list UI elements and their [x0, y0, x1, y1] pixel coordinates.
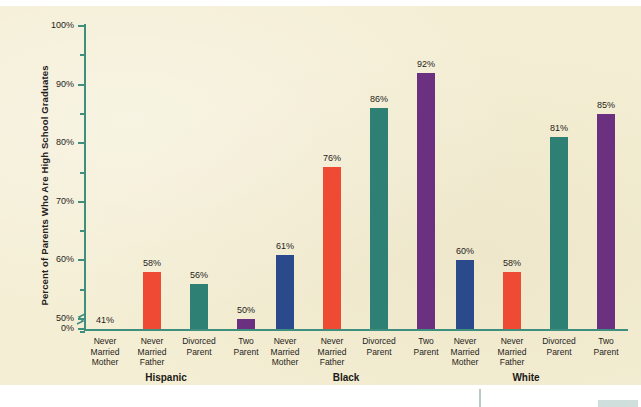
chart-page: Percent of Parents Who Are High School G… — [0, 0, 641, 407]
bar: 58% — [503, 272, 521, 329]
bar: 58% — [143, 272, 161, 329]
bar-value-label: 76% — [323, 153, 341, 163]
bar-value-label: 58% — [503, 258, 521, 268]
corner-artifact — [598, 400, 638, 407]
bar-value-label: 41% — [96, 315, 114, 325]
bar-value-label: 85% — [597, 100, 615, 110]
bar: 61% — [276, 255, 294, 329]
bar: 76% — [323, 167, 341, 329]
x-axis-group-label: Black — [286, 372, 406, 383]
bar: 60% — [456, 260, 474, 329]
x-axis-group-label: White — [466, 372, 586, 383]
bar-value-label: 60% — [456, 246, 474, 256]
x-axis-group-label: Hispanic — [106, 372, 226, 383]
bar: 56% — [190, 284, 208, 329]
x-axis-category-label: TwoParent — [577, 336, 635, 357]
bar-series: 41%58%56%50%61%76%86%92%60%58%81%85% — [0, 6, 641, 385]
bar: 50% — [237, 319, 255, 329]
bar: 92% — [417, 73, 435, 329]
bar-value-label: 56% — [190, 270, 208, 280]
page-bottom-margin — [0, 385, 641, 407]
bar: 86% — [370, 108, 388, 329]
bar-value-label: 61% — [276, 241, 294, 251]
bar-value-label: 58% — [143, 258, 161, 268]
page-divider-mark — [479, 389, 481, 407]
bar: 85% — [597, 114, 615, 329]
chart-panel: Percent of Parents Who Are High School G… — [0, 6, 641, 385]
bar-value-label: 81% — [550, 123, 568, 133]
plot-area: Percent of Parents Who Are High School G… — [0, 6, 641, 385]
bar-value-label: 86% — [370, 94, 388, 104]
bar: 81% — [550, 137, 568, 329]
bar-value-label: 50% — [237, 305, 255, 315]
bar-value-label: 92% — [417, 59, 435, 69]
